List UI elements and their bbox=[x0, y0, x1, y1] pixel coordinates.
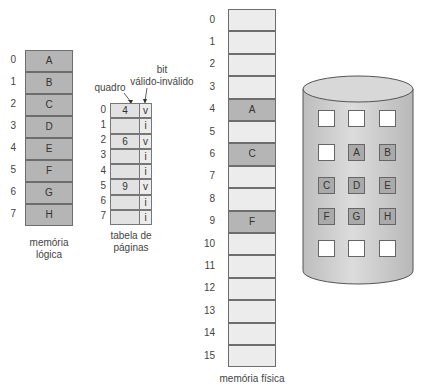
disk-page-f: F bbox=[318, 208, 335, 225]
pt-row-4: i bbox=[110, 164, 152, 179]
caption-line: páginas bbox=[94, 242, 168, 254]
phys-index-10: 10 bbox=[201, 238, 215, 249]
pt-frame-2: 6 bbox=[110, 134, 140, 149]
phys-index-9: 9 bbox=[201, 215, 215, 226]
phys-index-14: 14 bbox=[201, 327, 215, 338]
pt-frame-4 bbox=[110, 164, 140, 179]
pt-row-7: i bbox=[110, 210, 152, 225]
disk-slot bbox=[318, 144, 335, 161]
pt-index-1: 1 bbox=[92, 119, 106, 130]
pt-index-5: 5 bbox=[92, 180, 106, 191]
disk-page-d: D bbox=[348, 177, 365, 194]
pt-bit-3: i bbox=[139, 149, 152, 164]
phys-index-4: 4 bbox=[201, 103, 215, 114]
phys-index-1: 1 bbox=[201, 36, 215, 47]
pt-row-5: 9 v bbox=[110, 179, 152, 194]
pt-frame-3 bbox=[110, 149, 140, 164]
phys-index-6: 6 bbox=[201, 148, 215, 159]
pt-bit-1: i bbox=[139, 118, 152, 133]
pt-row-1: i bbox=[110, 118, 152, 133]
pt-index-3: 3 bbox=[92, 149, 106, 160]
phys-frame-6: C bbox=[228, 143, 276, 165]
pt-index-2: 2 bbox=[92, 134, 106, 145]
phys-frame-1 bbox=[228, 31, 276, 53]
pt-row-6: i bbox=[110, 195, 152, 210]
disk-slot bbox=[348, 240, 365, 257]
pt-row-0: 4 v bbox=[110, 103, 152, 118]
disk-page-h: H bbox=[379, 208, 396, 225]
pt-bit-2: v bbox=[139, 134, 152, 149]
phys-frame-7 bbox=[228, 166, 276, 188]
phys-index-13: 13 bbox=[201, 305, 215, 316]
pt-frame-0: 4 bbox=[110, 103, 140, 118]
pt-frame-6 bbox=[110, 195, 140, 210]
phys-frame-2 bbox=[228, 54, 276, 76]
phys-frame-3 bbox=[228, 76, 276, 98]
phys-index-8: 8 bbox=[201, 193, 215, 204]
pt-index-6: 6 bbox=[92, 195, 106, 206]
disk-page-b: B bbox=[379, 144, 396, 161]
phys-frame-9: F bbox=[228, 211, 276, 233]
pt-bit-0: v bbox=[139, 103, 152, 118]
pt-frame-7 bbox=[110, 210, 140, 225]
pt-frame-1 bbox=[110, 118, 140, 133]
phys-index-11: 11 bbox=[201, 260, 215, 271]
disk-page-e: E bbox=[379, 177, 396, 194]
phys-frame-15 bbox=[228, 345, 276, 367]
disk-slot bbox=[379, 240, 396, 257]
disk-slot bbox=[318, 110, 335, 127]
phys-frame-10 bbox=[228, 233, 276, 255]
caption-line: tabela de bbox=[94, 230, 168, 242]
pt-row-2: 6 v bbox=[110, 134, 152, 149]
pt-index-4: 4 bbox=[92, 165, 106, 176]
phys-frame-11 bbox=[228, 255, 276, 277]
phys-index-3: 3 bbox=[201, 81, 215, 92]
disk-slot bbox=[379, 110, 396, 127]
phys-index-15: 15 bbox=[201, 350, 215, 361]
phys-frame-8 bbox=[228, 188, 276, 210]
pt-bit-6: i bbox=[139, 195, 152, 210]
phys-index-2: 2 bbox=[201, 58, 215, 69]
phys-frame-13 bbox=[228, 300, 276, 322]
phys-index-12: 12 bbox=[201, 282, 215, 293]
pt-row-3: i bbox=[110, 149, 152, 164]
phys-index-7: 7 bbox=[201, 170, 215, 181]
pt-bit-7: i bbox=[139, 210, 152, 225]
disk-page-c: C bbox=[318, 177, 335, 194]
disk-page-g: G bbox=[348, 208, 365, 225]
phys-index-5: 5 bbox=[201, 126, 215, 137]
phys-frame-14 bbox=[228, 323, 276, 345]
phys-frame-5 bbox=[228, 121, 276, 143]
pt-frame-5: 9 bbox=[110, 179, 140, 194]
phys-frame-12 bbox=[228, 278, 276, 300]
phys-frame-0 bbox=[228, 9, 276, 31]
pt-bit-4: i bbox=[139, 164, 152, 179]
pt-index-7: 7 bbox=[92, 210, 106, 221]
disk-page-a: A bbox=[348, 144, 365, 161]
physical-memory-caption: memória física bbox=[200, 373, 304, 385]
disk-slot bbox=[318, 240, 335, 257]
page-table-caption: tabela de páginas bbox=[94, 230, 168, 254]
phys-index-0: 0 bbox=[201, 14, 215, 25]
pt-bit-5: v bbox=[139, 179, 152, 194]
phys-frame-4: A bbox=[228, 99, 276, 121]
disk-slot bbox=[348, 110, 365, 127]
pt-index-0: 0 bbox=[92, 104, 106, 115]
